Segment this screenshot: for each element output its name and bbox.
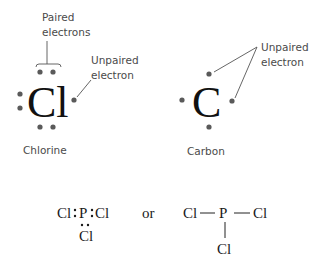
chlorine-symbol: Cl: [27, 78, 69, 127]
unpaired-electron-label-line1: Unpaired: [91, 54, 139, 66]
carbon-diagram: Unpaired electron C Carbon: [179, 41, 308, 157]
bond-electron-dot: [91, 215, 93, 217]
bond-electron-dot: [87, 224, 89, 226]
pcl3-bottom-cl: Cl: [79, 228, 93, 244]
or-separator: or: [142, 205, 155, 221]
pcl3-line-left-cl: Cl: [183, 205, 197, 221]
pcl3-line-bottom-cl: Cl: [217, 241, 231, 256]
bond-electron-dot: [91, 209, 93, 211]
bond-electron-dot: [81, 224, 83, 226]
unpaired-electron-leader-line: [77, 80, 91, 97]
bond-electron-dot: [74, 209, 76, 211]
pcl3-right-cl: Cl: [95, 205, 109, 221]
electron-dot: [50, 69, 55, 74]
unpaired-electron-dot: [71, 97, 76, 102]
lewis-dot-diagram: Paired electrons Cl Unpaired electron Ch…: [0, 0, 321, 256]
pcl3-dot-structure: Cl P Cl Cl: [57, 205, 109, 244]
carbon-unpaired-label-line2: electron: [261, 56, 304, 68]
bond-electron-dot: [74, 215, 76, 217]
carbon-unpaired-label-line1: Unpaired: [261, 41, 309, 53]
pcl3-p: P: [79, 205, 87, 221]
paired-electrons-label-line1: Paired: [42, 11, 74, 23]
paired-electrons-bracket: [36, 41, 61, 67]
chlorine-name-label: Chlorine: [23, 144, 67, 156]
carbon-name-label: Carbon: [187, 145, 225, 157]
pcl3-line-p: P: [219, 205, 227, 221]
electron-dot: [179, 97, 184, 102]
paired-electrons-label-line2: electrons: [42, 26, 90, 38]
pcl3-left-cl: Cl: [57, 205, 71, 221]
electron-dot: [17, 91, 22, 96]
electron-dot: [206, 71, 211, 76]
chlorine-diagram: Paired electrons Cl Unpaired electron Ch…: [17, 11, 138, 156]
pcl3-line-structure: Cl P Cl Cl: [183, 205, 267, 256]
unpaired-electron-label-line2: electron: [91, 69, 134, 81]
electron-dot: [229, 98, 234, 103]
pcl3-line-right-cl: Cl: [253, 205, 267, 221]
electron-dot: [37, 69, 42, 74]
electron-dot: [17, 105, 22, 110]
carbon-symbol: C: [192, 78, 221, 127]
